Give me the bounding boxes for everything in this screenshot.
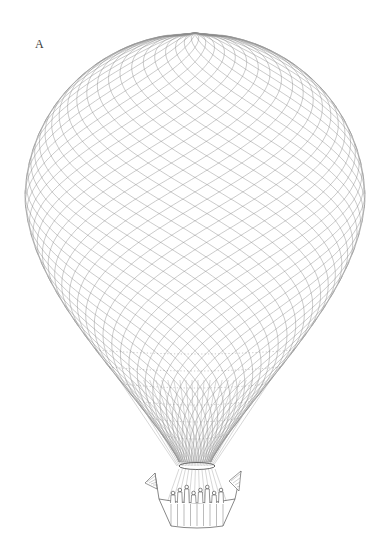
- passenger-head: [199, 488, 203, 492]
- net-line: [52, 87, 279, 412]
- net-line: [160, 33, 296, 462]
- net-line: [27, 33, 206, 223]
- net-line: [86, 44, 314, 369]
- passenger-head: [171, 491, 175, 495]
- suspension-cord: [207, 380, 246, 466]
- load-ring: [179, 463, 215, 470]
- passenger-head: [205, 485, 209, 489]
- passenger-body: [171, 495, 176, 503]
- passenger-body: [191, 495, 196, 503]
- passenger-body: [219, 492, 224, 503]
- net-line: [128, 33, 313, 462]
- right-flag: [229, 471, 241, 491]
- net-line: [77, 33, 262, 462]
- net-line: [97, 33, 320, 340]
- suspension-cord: [202, 380, 223, 466]
- suspension-cords: [119, 380, 270, 503]
- net-line: [25, 33, 195, 194]
- net-line: [94, 58, 322, 383]
- suspension-cord: [213, 380, 271, 466]
- balloon-outline: [25, 33, 365, 462]
- net-line: [77, 44, 304, 369]
- net-line: [166, 190, 365, 462]
- net-line: [55, 33, 270, 312]
- net-line: [120, 33, 335, 312]
- gondola: [145, 471, 241, 528]
- suspension-cord: [144, 380, 183, 466]
- net-line: [31, 233, 208, 462]
- net-line: [69, 33, 292, 340]
- passenger-head: [219, 488, 223, 492]
- net-line: [103, 72, 331, 397]
- net-line: [87, 33, 313, 355]
- net-line: [35, 248, 204, 463]
- net-line: [182, 233, 359, 462]
- suspension-cord: [168, 380, 189, 466]
- suspension-cord: [138, 380, 182, 466]
- passenger-body: [198, 492, 203, 503]
- net-line: [77, 33, 303, 355]
- net-line: [59, 72, 287, 397]
- balloon-illustration: [0, 0, 384, 551]
- suspension-cord: [119, 380, 177, 466]
- net-line: [94, 33, 230, 462]
- balloon-net: [25, 33, 365, 462]
- net-line: [112, 87, 338, 412]
- passenger-body: [177, 492, 182, 503]
- passenger-body: [205, 489, 210, 503]
- net-line: [153, 158, 362, 462]
- passenger-head: [178, 488, 182, 492]
- passenger-head: [212, 491, 216, 495]
- net-line: [195, 33, 365, 194]
- net-line: [184, 33, 363, 223]
- suspension-cord: [209, 380, 253, 466]
- passenger-head: [192, 491, 196, 495]
- net-line: [25, 190, 224, 462]
- net-line: [37, 33, 235, 269]
- passenger-head: [185, 485, 189, 489]
- net-line: [186, 248, 355, 463]
- net-line: [109, 33, 329, 326]
- left-flag: [145, 473, 157, 489]
- net-line: [28, 158, 237, 462]
- net-line: [155, 33, 353, 269]
- passenger-body: [184, 489, 189, 503]
- net-line: [62, 33, 282, 326]
- net-line: [68, 58, 296, 383]
- passenger-body: [212, 495, 217, 503]
